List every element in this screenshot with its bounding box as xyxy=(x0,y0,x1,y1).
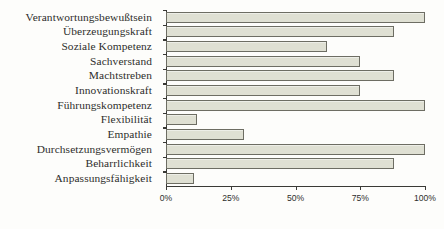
value-tick-label: 25% xyxy=(222,193,239,203)
value-tick-label: 100% xyxy=(414,193,436,203)
category-tick xyxy=(163,10,167,11)
value-tick xyxy=(166,186,167,190)
category-label: Beharrlichkeit xyxy=(85,158,152,169)
category-label-row: Anpassungsfähigkeit xyxy=(0,171,158,186)
category-label-row: Sachverstand xyxy=(0,54,158,69)
bar xyxy=(166,26,394,37)
category-tick xyxy=(163,127,167,128)
category-label: Sachverstand xyxy=(90,56,152,67)
bar-chart: Verantwortungsbewußtsein Überzeugungskra… xyxy=(0,0,444,229)
category-label-row: Innovationskraft xyxy=(0,83,158,98)
bar xyxy=(166,144,425,155)
value-tick-label: 50% xyxy=(287,193,304,203)
category-tick xyxy=(163,157,167,158)
category-label: Verantwortungsbewußtsein xyxy=(26,12,152,23)
category-label: Führungskompetenz xyxy=(57,100,152,111)
category-label: Überzeugungskraft xyxy=(63,26,152,37)
category-tick xyxy=(163,39,167,40)
bar-row xyxy=(166,10,425,25)
value-tick xyxy=(231,186,232,190)
category-tick xyxy=(163,98,167,99)
value-tick-label: 75% xyxy=(352,193,369,203)
category-tick xyxy=(163,171,167,172)
bar-row xyxy=(166,25,425,40)
bar-row xyxy=(166,142,425,157)
category-label-row: Flexibilität xyxy=(0,113,158,128)
bar-row xyxy=(166,157,425,172)
bar xyxy=(166,129,244,140)
bar-row xyxy=(166,127,425,142)
category-tick xyxy=(163,113,167,114)
bar-row xyxy=(166,54,425,69)
category-label-row: Durchsetzungsvermögen xyxy=(0,142,158,157)
category-label: Durchsetzungsvermögen xyxy=(37,144,152,155)
category-label-row: Empathie xyxy=(0,127,158,142)
bar xyxy=(166,41,327,52)
bar-row xyxy=(166,83,425,98)
category-label-row: Machtstreben xyxy=(0,69,158,84)
category-label: Machtstreben xyxy=(89,70,152,81)
category-tick xyxy=(163,142,167,143)
plot-area: 0%25%50%75%100% xyxy=(166,10,425,186)
value-tick-label: 0% xyxy=(160,193,172,203)
category-label: Anpassungsfähigkeit xyxy=(55,173,152,184)
bar-row xyxy=(166,98,425,113)
category-label-row: Überzeugungskraft xyxy=(0,25,158,40)
category-label-row: Führungskompetenz xyxy=(0,98,158,113)
bar xyxy=(166,12,425,23)
category-label: Innovationskraft xyxy=(75,85,152,96)
bar-row xyxy=(166,39,425,54)
category-tick xyxy=(163,54,167,55)
category-label: Empathie xyxy=(108,129,152,140)
value-tick xyxy=(296,186,297,190)
category-tick xyxy=(163,69,167,70)
category-label: Soziale Kompetenz xyxy=(61,41,152,52)
bar xyxy=(166,85,360,96)
value-tick xyxy=(360,186,361,190)
bar-row xyxy=(166,113,425,128)
bar xyxy=(166,70,394,81)
bar xyxy=(166,173,194,184)
category-label-row: Beharrlichkeit xyxy=(0,157,158,172)
category-tick xyxy=(163,25,167,26)
category-label-row: Verantwortungsbewußtsein xyxy=(0,10,158,25)
value-tick xyxy=(425,186,426,190)
category-label: Flexibilität xyxy=(101,114,152,125)
bar-row xyxy=(166,69,425,84)
category-label-row: Soziale Kompetenz xyxy=(0,39,158,54)
category-tick xyxy=(163,83,167,84)
bar xyxy=(166,100,425,111)
bar xyxy=(166,114,197,125)
bar-row xyxy=(166,171,425,186)
category-axis-labels: Verantwortungsbewußtsein Überzeugungskra… xyxy=(0,10,158,186)
bar xyxy=(166,56,360,67)
bar xyxy=(166,158,394,169)
